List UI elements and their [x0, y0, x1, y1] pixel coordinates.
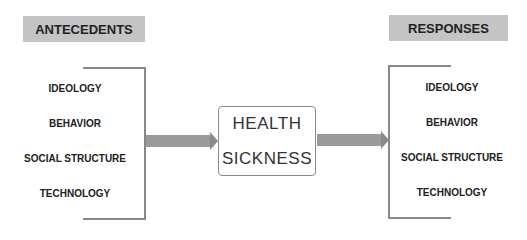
arrow-head-icon [210, 132, 218, 150]
response-item-ideology: IDEOLOGY [385, 82, 519, 93]
sickness-label: SICKNESS [219, 149, 315, 169]
arrow-shaft [146, 135, 210, 147]
responses-header: RESPONSES [389, 15, 508, 41]
antecedents-header: ANTECEDENTS [23, 16, 145, 42]
health-sickness-box: HEALTH SICKNESS [218, 106, 316, 176]
response-item-behavior: BEHAVIOR [385, 117, 519, 128]
health-label: HEALTH [219, 114, 315, 134]
response-item-social-structure: SOCIAL STRUCTURE [385, 152, 519, 163]
arrow-shaft [317, 134, 381, 146]
antecedent-item-technology: TECHNOLOGY [0, 188, 150, 199]
antecedent-item-behavior: BEHAVIOR [0, 118, 150, 129]
antecedent-item-social-structure: SOCIAL STRUCTURE [0, 153, 150, 164]
response-item-technology: TECHNOLOGY [385, 187, 519, 198]
antecedent-item-ideology: IDEOLOGY [0, 83, 150, 94]
